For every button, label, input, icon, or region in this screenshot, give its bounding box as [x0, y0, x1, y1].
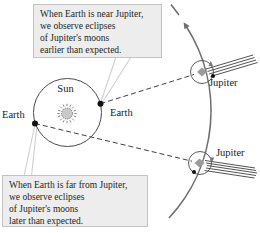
callout-box-near-jupiter: When Earth is near Jupiter, we observe e… [33, 4, 162, 58]
sun-icon [57, 104, 76, 123]
eclipse-rays-bottom [205, 161, 258, 179]
callout-bottom-line-4: later than expected. [9, 215, 143, 227]
sight-line-near [101, 75, 195, 104]
jupiter-label-bottom: Jupiter [216, 147, 245, 158]
earth-label-left: Earth [2, 109, 25, 120]
sun-body [62, 108, 73, 119]
moon-dot-bottom [192, 170, 196, 174]
sight-line-far [35, 124, 192, 162]
earth-label-right: Earth [110, 107, 133, 118]
jupiter-label-top: Jupiter [209, 77, 238, 88]
jupiter-orbit-arc [169, 26, 211, 218]
callout-bottom-line-1: When Earth is far from Jupiter, [9, 179, 143, 191]
earth-dot-far [32, 121, 38, 127]
callout-top-line-1: When Earth is near Jupiter, [40, 8, 157, 20]
callout-pointer-top [101, 57, 132, 104]
romer-speed-of-light-diagram: Sun Earth Earth Jupiter Jupiter When Ear… [0, 0, 260, 233]
callout-top-line-3: of Jupiter's moons [40, 32, 157, 44]
callout-box-far-jupiter: When Earth is far from Jupiter, we obser… [2, 175, 148, 227]
callout-bottom-line-2: we observe eclipses [9, 191, 143, 203]
callout-top-line-4: earlier than expected. [40, 44, 157, 56]
earth-dot-near [98, 101, 104, 107]
callout-top-line-2: we observe eclipses [40, 20, 157, 32]
callout-bottom-line-3: of Jupiter's moons [9, 203, 143, 215]
jupiter-motion-dash [171, 5, 179, 16]
sun-label: Sun [57, 83, 74, 94]
callout-pointer-bottom [24, 127, 37, 177]
